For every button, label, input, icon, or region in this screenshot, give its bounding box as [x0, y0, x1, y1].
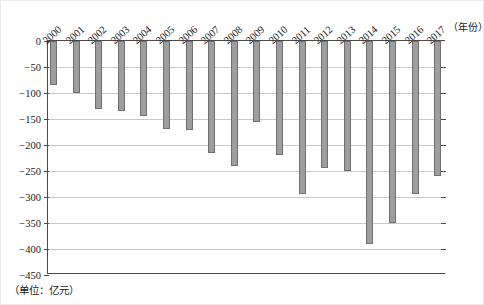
y-axis-label: −200: [19, 140, 41, 151]
gridline: [48, 249, 446, 250]
gridline: [48, 67, 446, 68]
plot-area: 0−50−100−150−200−250−300−350−400−450: [47, 40, 445, 274]
bar: [412, 41, 419, 194]
bar: [366, 41, 373, 244]
y-axis-tick-right: [441, 145, 446, 146]
y-axis-label: −150: [19, 114, 41, 125]
y-axis-tick: [44, 223, 49, 224]
y-axis-label: −50: [25, 62, 41, 73]
unit-note: （单位：亿元）: [9, 282, 79, 297]
gridline: [48, 93, 446, 94]
y-axis-tick-right: [441, 223, 446, 224]
gridline: [48, 145, 446, 146]
y-axis-tick-right: [441, 197, 446, 198]
bar: [140, 41, 147, 116]
bar: [389, 41, 396, 223]
gridline: [48, 223, 446, 224]
y-axis-tick: [44, 119, 49, 120]
bar: [276, 41, 283, 155]
bar: [208, 41, 215, 153]
bar: [73, 41, 80, 93]
bar: [253, 41, 260, 122]
bar: [50, 41, 57, 85]
y-axis-tick: [44, 67, 49, 68]
y-axis-tick-right: [441, 67, 446, 68]
bar: [321, 41, 328, 168]
chart-figure: 0−50−100−150−200−250−300−350−400−450 （年份…: [0, 0, 484, 305]
bar: [434, 41, 441, 176]
y-axis-tick-right: [441, 171, 446, 172]
bar: [163, 41, 170, 129]
bar: [95, 41, 102, 109]
gridline: [48, 197, 446, 198]
y-axis-label: −100: [19, 88, 41, 99]
x-axis-title: （年份）: [448, 19, 484, 34]
y-axis-tick: [44, 275, 49, 276]
bar: [186, 41, 193, 130]
bar: [118, 41, 125, 111]
y-axis-label: −450: [19, 270, 41, 281]
y-axis-label: −250: [19, 166, 41, 177]
y-axis-tick: [44, 93, 49, 94]
y-axis-tick: [44, 197, 49, 198]
bar: [231, 41, 238, 166]
y-axis-tick-right: [441, 93, 446, 94]
y-axis-label: −350: [19, 218, 41, 229]
y-axis-tick: [44, 171, 49, 172]
bar: [299, 41, 306, 194]
bar: [344, 41, 351, 171]
y-axis-label: −300: [19, 192, 41, 203]
gridline: [48, 119, 446, 120]
gridline: [48, 171, 446, 172]
y-axis-label: −400: [19, 244, 41, 255]
y-axis-tick-right: [441, 249, 446, 250]
y-axis-tick: [44, 145, 49, 146]
y-axis-tick-right: [441, 119, 446, 120]
y-axis-tick: [44, 249, 49, 250]
